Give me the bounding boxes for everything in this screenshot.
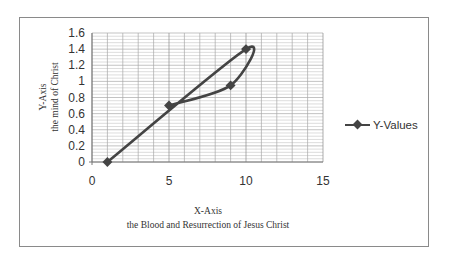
y-tick-label: 1.2 — [68, 58, 85, 72]
y-tick-label: 0.8 — [68, 91, 85, 105]
y-axis-title: Y-Axis — [38, 83, 48, 110]
x-tick-label: 5 — [166, 174, 173, 188]
y-tick-label: 1 — [78, 74, 85, 88]
x-axis-subtitle: the Blood and Resurrection of Jesus Chri… — [127, 220, 290, 230]
data-series — [102, 44, 254, 167]
x-tick-label: 0 — [89, 174, 96, 188]
legend-marker-icon — [353, 120, 363, 130]
axes — [89, 33, 323, 165]
chart-plot: 00.20.40.60.811.21.41.6051015 X-Axis the… — [0, 0, 449, 256]
legend: Y-Values — [345, 119, 418, 131]
y-tick-label: 1.4 — [68, 42, 85, 56]
y-tick-label: 0.6 — [68, 107, 85, 121]
x-tick-label: 15 — [316, 174, 330, 188]
y-tick-label: 1.6 — [68, 26, 85, 40]
series-line — [107, 47, 254, 162]
x-axis-title: X-Axis — [194, 206, 222, 216]
x-tick-label: 10 — [239, 174, 253, 188]
y-tick-label: 0.2 — [68, 139, 85, 153]
y-tick-label: 0 — [78, 155, 85, 169]
legend-label: Y-Values — [373, 119, 418, 131]
grid-lines — [92, 33, 323, 162]
y-tick-label: 0.4 — [68, 123, 85, 137]
y-axis-subtitle: the mind of Christ — [50, 62, 60, 132]
